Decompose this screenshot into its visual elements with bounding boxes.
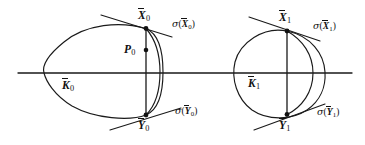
label-y0-base: Y (138, 120, 145, 132)
label-y1-sub: 1 (286, 124, 290, 133)
label-sigma-x0-base: X (182, 20, 188, 30)
curve-k0-oval (44, 25, 163, 119)
label-k0: K0 (62, 80, 74, 94)
point-p0 (144, 48, 149, 53)
label-k0-sub: 0 (70, 84, 74, 93)
point-y0 (144, 113, 149, 118)
label-sigma-y1-base: Y (327, 108, 333, 118)
point-y1 (285, 112, 290, 117)
label-x0: X0 (138, 10, 150, 24)
geometry-figure: X0 σ(X0) P0 K0 Y0 σ(Y0) X1 σ(X1) K1 Y1 σ… (0, 0, 365, 145)
label-x0-sub: 0 (146, 14, 150, 23)
label-sigma-y0-base: Y (185, 107, 191, 117)
point-x0 (144, 26, 149, 31)
label-x0-base: X (138, 10, 146, 22)
label-x1-base: X (279, 12, 287, 24)
label-sigma-y0: σ(Y0) (175, 106, 197, 118)
label-sigma-x1-base: X (323, 22, 329, 32)
label-k1: K1 (248, 78, 260, 92)
label-k0-base: K (62, 80, 70, 92)
label-sigma-x1: σ(X1) (313, 21, 336, 33)
label-p0-sub: 0 (131, 48, 135, 57)
label-p0: P0 (124, 44, 136, 58)
label-k1-base: K (248, 78, 256, 90)
point-x1 (285, 29, 290, 34)
label-x1-sub: 1 (287, 16, 291, 25)
label-x1: X1 (279, 12, 291, 26)
label-y1-base: Y (279, 120, 286, 132)
label-k1-sub: 1 (256, 82, 260, 91)
label-y0-sub: 0 (145, 124, 149, 133)
label-y0: Y0 (138, 120, 150, 134)
label-y1: Y1 (279, 120, 291, 134)
curve-k1-circle (234, 30, 325, 118)
label-p0-base: P (124, 43, 131, 55)
tangent-line-x0 (101, 15, 172, 37)
label-sigma-x0: σ(X0) (172, 19, 195, 31)
label-sigma-y1: σ(Y1) (317, 107, 339, 119)
